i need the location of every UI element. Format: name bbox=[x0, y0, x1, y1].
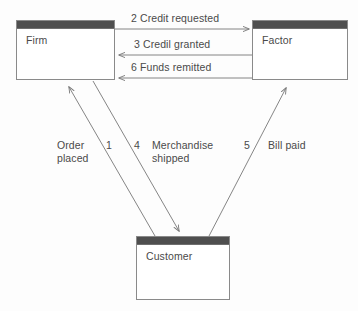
merchandise-line-2: shipped bbox=[152, 152, 189, 164]
node-firm[interactable]: Firm bbox=[16, 20, 115, 80]
node-factor-label: Factor bbox=[262, 34, 292, 46]
edge-label-funds-remitted: 6 Funds remitted bbox=[131, 61, 211, 73]
node-firm-label: Firm bbox=[26, 34, 47, 46]
node-customer-titlebar bbox=[137, 237, 229, 245]
edge-step-number-4: 4 bbox=[134, 139, 140, 151]
order-placed-line-2: placed bbox=[57, 152, 89, 164]
node-customer[interactable]: Customer bbox=[136, 236, 230, 300]
edge-step-number-1: 1 bbox=[106, 139, 112, 151]
edge-label-merchandise-shipped: Merchandise shipped bbox=[152, 139, 230, 164]
edge-label-order-placed: Order placed bbox=[57, 139, 101, 164]
node-factor-titlebar bbox=[253, 21, 347, 29]
order-placed-line-1: Order bbox=[57, 139, 84, 151]
factoring-flow-diagram: Firm Factor Customer 2 Credit requested … bbox=[0, 0, 358, 311]
edge-step-number-5: 5 bbox=[244, 139, 250, 151]
merchandise-line-1: Merchandise bbox=[152, 139, 213, 151]
node-customer-label: Customer bbox=[146, 250, 192, 262]
node-firm-titlebar bbox=[17, 21, 114, 29]
edge-label-credit-requested: 2 Credit requested bbox=[131, 12, 219, 24]
edge-label-credit-granted: 3 Credil granted bbox=[134, 38, 210, 50]
edge-label-bill-paid: Bill paid bbox=[268, 139, 306, 151]
node-factor[interactable]: Factor bbox=[252, 20, 348, 80]
